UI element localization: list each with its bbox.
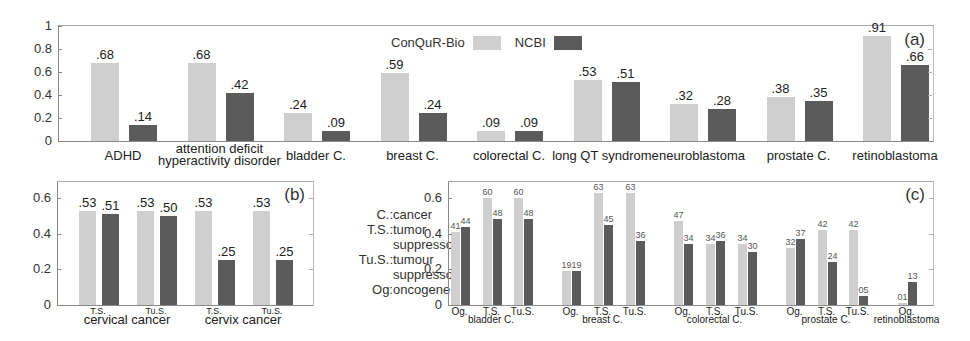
bar-value-label: .25	[212, 244, 241, 259]
y-tick-mark	[58, 95, 62, 96]
bar-conqur-bio	[451, 232, 460, 305]
right-tick-mark	[928, 118, 932, 119]
bar-conqur-bio	[188, 63, 216, 141]
bar-ncbi	[748, 252, 757, 305]
right-tick-mark	[928, 72, 932, 73]
bar-value-label: 42	[813, 219, 832, 229]
bar-conqur-bio	[137, 211, 154, 305]
abbreviation-key: Tu.S.:	[335, 252, 393, 267]
bar-value-label: 48	[488, 208, 507, 218]
abbreviation-legend: C.:cancerT.S.:tumorsuppressorTu.S.:tumou…	[335, 207, 457, 297]
y-tick-label: 0	[22, 133, 52, 148]
bar-value-label: 30	[743, 241, 762, 251]
bar-value-label: .66	[895, 49, 935, 64]
right-tick-mark	[929, 234, 933, 235]
y-tick-mark	[448, 198, 452, 199]
bar-ncbi	[160, 216, 177, 305]
bar-value-label: .51	[606, 66, 646, 81]
bar-value-label: .53	[247, 195, 276, 210]
bar-value-label: .24	[278, 97, 318, 112]
bar-value-label: .53	[568, 64, 608, 79]
bar-conqur-bio	[284, 113, 312, 141]
bar-value-label: .68	[85, 47, 125, 62]
abbreviation-key: C.:	[335, 207, 393, 222]
y-tick-mark	[58, 72, 62, 73]
y-tick-mark	[448, 234, 452, 235]
bar-conqur-bio	[898, 303, 907, 305]
y-tick-label: 0.6	[21, 190, 51, 205]
bar-value-label: 44	[456, 216, 475, 226]
x-group-label: retinoblastoma	[857, 314, 957, 325]
x-category-label: retinoblastoma	[815, 149, 970, 162]
x-group-label: cervix cancer	[183, 313, 303, 327]
bar-value-label: .91	[857, 20, 897, 35]
bar-ncbi	[572, 271, 581, 305]
bar-value-label: 36	[631, 230, 650, 240]
bar-conqur-bio	[786, 248, 795, 305]
abbreviation-value: cancer	[393, 207, 432, 222]
panel-b-label: (b)	[284, 185, 305, 205]
bar-conqur-bio	[594, 193, 603, 305]
bar-value-label: .38	[761, 81, 801, 96]
right-tick-mark	[928, 95, 932, 96]
bar-ncbi	[226, 93, 254, 141]
bar-value-label: 05	[854, 285, 873, 295]
chart-panel-c: 4144604860481919634563364734343634303237…	[448, 181, 934, 306]
bar-conqur-bio	[562, 271, 571, 305]
panel-a-label: (a)	[904, 30, 925, 50]
bar-value-label: .28	[702, 93, 742, 108]
y-tick-mark	[57, 305, 61, 306]
bar-value-label: 24	[823, 251, 842, 261]
panel-c-label: (c)	[905, 185, 925, 205]
bar-ncbi	[708, 109, 736, 141]
bar-ncbi	[716, 241, 725, 305]
bar-value-label: 37	[791, 228, 810, 238]
y-tick-label: 0.4	[21, 226, 51, 241]
y-tick-label: 0	[412, 297, 442, 312]
abbreviation-key	[335, 237, 393, 252]
bar-value-label: 63	[589, 182, 608, 192]
legend-swatch-conqur-bio	[473, 36, 501, 50]
x-group-label: breast C.	[553, 314, 653, 325]
bar-conqur-bio	[195, 211, 212, 305]
bar-conqur-bio	[574, 80, 602, 141]
legend-label-conqur-bio: ConQuR-Bio	[391, 35, 465, 50]
bar-value-label: .50	[154, 200, 183, 215]
bar-ncbi	[129, 125, 157, 141]
bar-value-label: .24	[413, 97, 453, 112]
y-tick-label: 0.6	[412, 190, 442, 205]
bar-ncbi	[805, 101, 833, 141]
bar-value-label: .32	[664, 88, 704, 103]
abbreviation-row: C.:cancer	[335, 207, 457, 222]
y-tick-label: 0.2	[412, 261, 442, 276]
chart-panel-a: .68.14.68.42.24.09.59.24.09.09.53.51.32.…	[58, 25, 934, 142]
bar-ncbi	[493, 219, 502, 305]
y-tick-mark	[57, 269, 61, 270]
bar-value-label: 42	[844, 219, 863, 229]
bar-value-label: .59	[375, 57, 415, 72]
bar-value-label: .09	[316, 115, 356, 130]
bar-value-label: .68	[182, 47, 222, 62]
bar-ncbi	[901, 65, 929, 141]
y-tick-label: 1	[22, 18, 52, 33]
y-tick-label: 0.6	[22, 64, 52, 79]
right-tick-mark	[309, 234, 313, 235]
y-tick-mark	[57, 234, 61, 235]
bar-conqur-bio	[626, 193, 635, 305]
abbreviation-row: Og:oncogene	[335, 282, 457, 297]
bar-value-label: 45	[599, 214, 618, 224]
bar-ncbi	[796, 239, 805, 305]
abbreviation-value: oncogene	[393, 282, 450, 297]
bar-ncbi	[604, 225, 613, 305]
bar-conqur-bio	[863, 36, 891, 141]
bar-ncbi	[461, 227, 470, 305]
y-tick-mark	[58, 118, 62, 119]
y-tick-mark	[57, 198, 61, 199]
right-tick-mark	[309, 198, 313, 199]
right-tick-mark	[929, 269, 933, 270]
bar-ncbi	[684, 244, 693, 305]
bar-value-label: .42	[220, 77, 260, 92]
panel-c-plot-area: 4144604860481919634563364734343634303237…	[449, 182, 933, 305]
y-tick-label: 0.4	[412, 226, 442, 241]
bar-conqur-bio	[79, 211, 96, 305]
